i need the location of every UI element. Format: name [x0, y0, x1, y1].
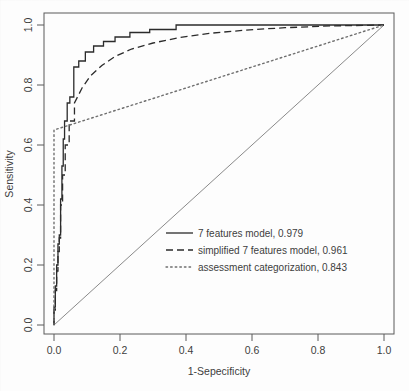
- x-tick-label: 1.0: [377, 344, 392, 356]
- x-tick-label: 0.4: [179, 344, 194, 356]
- x-tick-label: 0.6: [245, 344, 260, 356]
- x-axis-ticks: 0.00.20.40.60.81.0: [47, 334, 392, 356]
- x-tick-label: 0.0: [47, 344, 62, 356]
- roc-plot-figure: 0.00.20.40.60.81.0 0.00.20.40.60.81.0 1-…: [0, 0, 409, 391]
- legend-entry-label: 7 features model, 0.979: [198, 228, 304, 239]
- y-tick-label: 1.0: [22, 18, 34, 33]
- y-tick-label: 0.8: [22, 78, 34, 93]
- y-tick-label: 0.2: [22, 258, 34, 273]
- y-tick-label: 0.6: [22, 138, 34, 153]
- reference-diagonal: [54, 25, 384, 325]
- x-tick-label: 0.8: [311, 344, 326, 356]
- roc-plot-canvas: 0.00.20.40.60.81.0 0.00.20.40.60.81.0 1-…: [0, 0, 409, 391]
- chart-legend: 7 features model, 0.979simplified 7 feat…: [166, 228, 348, 273]
- y-axis-ticks: 0.00.20.40.60.81.0: [22, 18, 44, 333]
- legend-entry-label: simplified 7 features model, 0.961: [198, 245, 348, 256]
- x-axis-title: 1-Sepecificity: [188, 365, 251, 377]
- x-tick-label: 0.2: [113, 344, 128, 356]
- y-tick-label: 0.0: [22, 318, 34, 333]
- chance-diagonal-line: [54, 25, 384, 325]
- legend-entry-label: assessment categorization, 0.843: [198, 262, 347, 273]
- y-axis-title: Sensitivity: [3, 150, 15, 198]
- y-tick-label: 0.4: [22, 198, 34, 213]
